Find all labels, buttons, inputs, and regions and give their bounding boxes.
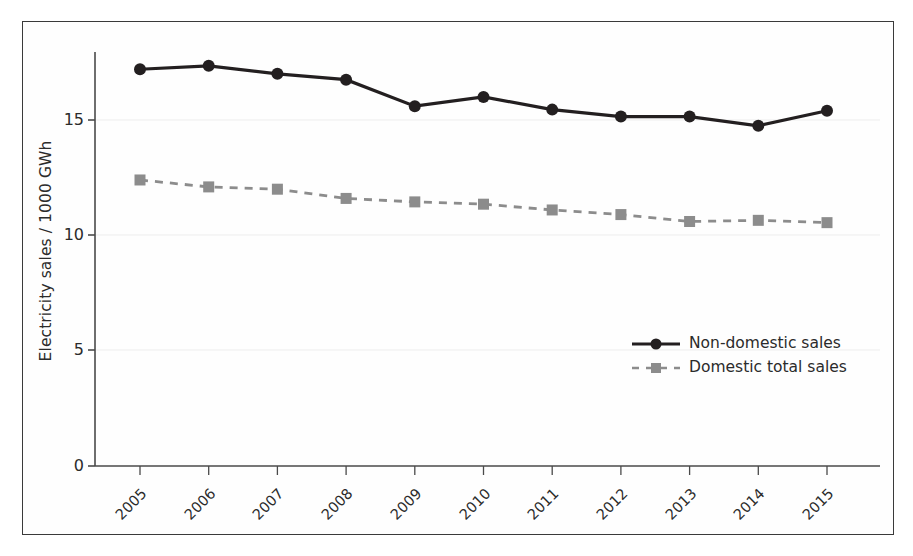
data-point bbox=[272, 184, 283, 195]
y-tick-label-0: 0 bbox=[44, 456, 84, 475]
series-2 bbox=[135, 174, 833, 228]
data-point bbox=[134, 63, 146, 75]
data-point bbox=[341, 193, 352, 204]
data-point bbox=[203, 60, 215, 72]
data-point bbox=[684, 111, 696, 123]
y-tick-label-10: 10 bbox=[44, 225, 84, 244]
legend-label-non-domestic-sales: Non-domestic sales bbox=[689, 336, 841, 352]
legend-item-non-domestic-sales[interactable]: Non-domestic sales bbox=[630, 332, 847, 356]
x-axis-ticks bbox=[140, 466, 827, 475]
data-point bbox=[546, 104, 558, 116]
chart-figure: Electricity sales / 1000 GWh 15 10 5 0 2… bbox=[0, 0, 913, 556]
data-point bbox=[340, 74, 352, 86]
legend-item-domestic-total-sales[interactable]: Domestic total sales bbox=[630, 356, 847, 380]
data-point bbox=[478, 199, 489, 210]
solid-line-circle-marker-icon bbox=[630, 334, 682, 354]
data-point bbox=[409, 196, 420, 207]
data-point bbox=[752, 120, 764, 132]
y-axis-ticks bbox=[88, 120, 95, 466]
data-point bbox=[821, 105, 833, 117]
data-point bbox=[615, 111, 627, 123]
dashed-line-square-marker-icon bbox=[630, 358, 682, 378]
data-point bbox=[615, 209, 626, 220]
data-point bbox=[822, 217, 833, 228]
gridlines bbox=[95, 120, 880, 350]
series-1 bbox=[134, 60, 833, 132]
data-series-layer bbox=[134, 60, 833, 228]
data-point bbox=[271, 68, 283, 80]
data-point bbox=[684, 216, 695, 227]
data-point bbox=[409, 100, 421, 112]
data-point bbox=[753, 215, 764, 226]
data-point bbox=[478, 91, 490, 103]
data-point bbox=[203, 181, 214, 192]
y-tick-label-5: 5 bbox=[44, 340, 84, 359]
legend-label-domestic-total-sales: Domestic total sales bbox=[689, 360, 847, 376]
data-point bbox=[547, 204, 558, 215]
chart-legend: Non-domestic sales Domestic total sales bbox=[630, 332, 847, 380]
y-tick-label-15: 15 bbox=[44, 110, 84, 129]
line-chart-plot-area bbox=[0, 0, 913, 556]
data-point bbox=[135, 174, 146, 185]
